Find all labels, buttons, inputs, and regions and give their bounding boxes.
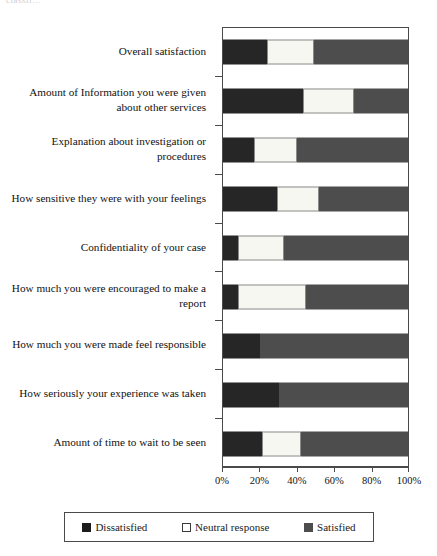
bar-segment-neutral-response bbox=[262, 431, 301, 456]
bar-segment-satisfied bbox=[297, 138, 408, 163]
category-label: Overall satisfaction bbox=[3, 44, 215, 59]
category-label: Amount of time to wait to be seen bbox=[3, 435, 215, 450]
category-label: How much you were made feel responsible bbox=[3, 337, 215, 352]
y-axis-line bbox=[222, 27, 223, 468]
y-axis-tick bbox=[215, 271, 222, 272]
stacked-bar bbox=[223, 382, 408, 407]
bar-segment-dissatisfied bbox=[223, 40, 267, 65]
bar-segment-neutral-response bbox=[277, 187, 320, 212]
bar-row bbox=[223, 321, 408, 370]
stacked-bar bbox=[223, 431, 408, 456]
x-axis-label: 60% bbox=[325, 475, 344, 486]
bar-row bbox=[223, 272, 408, 321]
bar-row bbox=[223, 419, 408, 468]
stacked-bar-chart: Overall satisfactionAmount of Informatio… bbox=[0, 0, 437, 556]
bar-segment-neutral-response bbox=[303, 89, 355, 114]
legend-item-neutral-response: Neutral response bbox=[182, 521, 269, 533]
stacked-bar bbox=[223, 89, 408, 114]
bar-row bbox=[223, 126, 408, 175]
x-axis-label: 20% bbox=[250, 475, 269, 486]
y-axis-tick bbox=[215, 418, 222, 419]
stacked-bar bbox=[223, 333, 408, 358]
category-label: Amount of Information you were given abo… bbox=[3, 85, 215, 115]
bar-segment-neutral-response bbox=[254, 138, 297, 163]
legend-swatch-satisfied bbox=[304, 523, 313, 532]
stacked-bar bbox=[223, 235, 408, 260]
plot-area bbox=[222, 27, 409, 467]
legend-item-satisfied: Satisfied bbox=[304, 521, 356, 533]
x-axis-label: 40% bbox=[287, 475, 306, 486]
category-label: How seriously your experience was taken bbox=[3, 386, 215, 401]
bar-segment-satisfied bbox=[306, 284, 408, 309]
stacked-bar bbox=[223, 138, 408, 163]
x-axis-tick bbox=[297, 467, 298, 472]
legend-item-dissatisfied: Dissatisfied bbox=[82, 521, 147, 533]
category-label: How sensitive they were with your feelin… bbox=[3, 191, 215, 206]
bar-row bbox=[223, 28, 408, 77]
category-label: How much you were encouraged to make a r… bbox=[3, 281, 215, 311]
bar-segment-dissatisfied bbox=[223, 284, 238, 309]
y-axis-tick bbox=[215, 76, 222, 77]
x-axis-tick bbox=[334, 467, 335, 472]
bar-segment-neutral-response bbox=[238, 284, 306, 309]
bar-segment-satisfied bbox=[301, 431, 408, 456]
stacked-bar bbox=[223, 40, 408, 65]
bar-segment-satisfied bbox=[354, 89, 408, 114]
x-axis-label: 0% bbox=[215, 475, 229, 486]
bar-segment-dissatisfied bbox=[223, 382, 279, 407]
x-axis-tick bbox=[408, 462, 409, 472]
bar-row bbox=[223, 224, 408, 273]
legend-swatch-neutral-response bbox=[182, 523, 191, 532]
bar-segment-dissatisfied bbox=[223, 235, 238, 260]
bar-segment-dissatisfied bbox=[223, 89, 303, 114]
bar-row bbox=[223, 77, 408, 126]
bar-segment-satisfied bbox=[279, 382, 409, 407]
category-label: Confidentiality of your case bbox=[3, 240, 215, 255]
legend-label-satisfied: Satisfied bbox=[317, 521, 356, 533]
bar-segment-neutral-response bbox=[267, 40, 313, 65]
bar-segment-satisfied bbox=[319, 187, 408, 212]
x-axis-tick bbox=[222, 462, 223, 472]
bar-segment-dissatisfied bbox=[223, 138, 254, 163]
y-axis-tick bbox=[215, 223, 222, 224]
category-label: Explanation about investigation or proce… bbox=[3, 134, 215, 164]
y-axis-tick bbox=[215, 174, 222, 175]
bar-row bbox=[223, 370, 408, 419]
bar-segment-dissatisfied bbox=[223, 333, 260, 358]
bar-row bbox=[223, 175, 408, 224]
bar-segment-satisfied bbox=[314, 40, 408, 65]
legend-swatch-dissatisfied bbox=[82, 523, 91, 532]
x-axis-line bbox=[222, 467, 409, 468]
x-axis-tick bbox=[259, 467, 260, 472]
stacked-bar bbox=[223, 187, 408, 212]
y-axis-tick bbox=[215, 369, 222, 370]
bar-segment-satisfied bbox=[284, 235, 408, 260]
chart-legend: Dissatisfied Neutral response Satisfied bbox=[64, 512, 374, 542]
x-axis-label: 100% bbox=[397, 475, 422, 486]
bar-segment-dissatisfied bbox=[223, 187, 277, 212]
bar-segment-satisfied bbox=[260, 333, 408, 358]
bar-segment-dissatisfied bbox=[223, 431, 262, 456]
y-axis-tick bbox=[215, 320, 222, 321]
legend-label-dissatisfied: Dissatisfied bbox=[95, 521, 147, 533]
x-axis-tick bbox=[372, 467, 373, 472]
bar-segment-neutral-response bbox=[238, 235, 284, 260]
x-axis-label: 80% bbox=[362, 475, 381, 486]
legend-label-neutral-response: Neutral response bbox=[195, 521, 269, 533]
y-axis-tick bbox=[215, 125, 222, 126]
stacked-bar bbox=[223, 284, 408, 309]
